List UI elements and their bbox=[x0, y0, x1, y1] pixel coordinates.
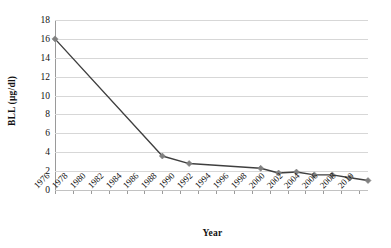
y-axis-tick-labels: 024681012141618 bbox=[22, 0, 50, 248]
series-markers bbox=[52, 36, 371, 184]
y-tick-label: 14 bbox=[26, 53, 50, 63]
x-axis-title: Year bbox=[0, 228, 391, 238]
y-tick-label: 16 bbox=[26, 34, 50, 44]
y-axis-title: BLL (µg/dl) bbox=[7, 56, 17, 146]
data-point-marker bbox=[186, 161, 192, 167]
y-tick-label: 12 bbox=[26, 72, 50, 82]
chart-container: BLL (µg/dl) 024681012141618 197619781980… bbox=[0, 0, 391, 248]
data-series-line bbox=[55, 20, 368, 190]
y-tick-label: 18 bbox=[26, 15, 50, 25]
series-polyline bbox=[55, 39, 368, 181]
y-tick-label: 8 bbox=[26, 109, 50, 119]
y-tick-label: 6 bbox=[26, 128, 50, 138]
data-point-marker bbox=[365, 178, 371, 184]
y-tick-label: 4 bbox=[26, 147, 50, 157]
plot-area bbox=[55, 20, 368, 190]
x-tick-mark bbox=[359, 191, 360, 194]
y-tick-label: 10 bbox=[26, 91, 50, 101]
